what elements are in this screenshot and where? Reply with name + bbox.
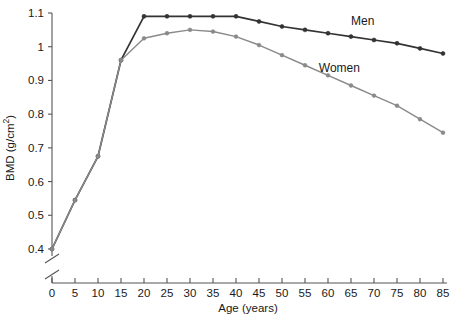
- x-axis-title: Age (years): [218, 302, 278, 314]
- y-tick-label: 0.9: [28, 74, 44, 86]
- x-tick-label: 60: [322, 287, 335, 299]
- y-tick-label: 0.6: [28, 176, 44, 188]
- x-tick-label: 20: [138, 287, 151, 299]
- x-tick-label: 75: [391, 287, 404, 299]
- data-point-marker: [280, 53, 284, 57]
- data-point-marker: [188, 14, 192, 18]
- data-point-marker: [257, 43, 261, 47]
- x-tick-label: 55: [299, 287, 312, 299]
- x-tick-label: 85: [437, 287, 450, 299]
- data-point-marker: [441, 51, 445, 55]
- x-tick-label: 50: [276, 287, 289, 299]
- y-tick-label: 0.7: [28, 142, 44, 154]
- x-tick-label: 40: [230, 287, 243, 299]
- data-point-marker: [418, 46, 422, 50]
- series-label-group: MenWomen: [319, 14, 375, 75]
- data-point-marker: [211, 30, 215, 34]
- data-point-marker: [349, 35, 353, 39]
- x-tick-label: 15: [115, 287, 128, 299]
- x-tick-label: 70: [368, 287, 381, 299]
- y-axis: 0.40.50.60.70.80.911.1: [28, 7, 59, 283]
- data-point-marker: [165, 14, 169, 18]
- data-point-marker: [303, 63, 307, 67]
- x-tick-label: 35: [207, 287, 220, 299]
- x-axis: 0510152025303540455055606570758085: [49, 278, 450, 299]
- y-axis-title: BMD (g/cm2): [1, 115, 16, 181]
- series-label-men: Men: [351, 14, 374, 28]
- chart-canvas: 0.40.50.60.70.80.911.1 05101520253035404…: [0, 0, 466, 320]
- y-tick-label: 0.8: [28, 108, 44, 120]
- data-point-marker: [96, 154, 100, 158]
- x-tick-label: 0: [49, 287, 55, 299]
- data-point-marker: [142, 14, 146, 18]
- x-tick-label: 30: [184, 287, 197, 299]
- data-point-marker: [165, 31, 169, 35]
- x-tick-label: 45: [253, 287, 266, 299]
- x-tick-label: 80: [414, 287, 427, 299]
- data-point-marker: [188, 28, 192, 32]
- data-point-marker: [257, 19, 261, 23]
- series-women: [50, 28, 445, 251]
- series-line-men: [52, 16, 443, 249]
- data-point-marker: [372, 94, 376, 98]
- data-point-marker: [142, 36, 146, 40]
- data-point-marker: [234, 14, 238, 18]
- y-tick-label: 1.1: [28, 7, 44, 19]
- data-point-marker: [234, 35, 238, 39]
- data-point-marker: [280, 24, 284, 28]
- series-label-women: Women: [319, 61, 360, 75]
- data-point-marker: [326, 31, 330, 35]
- data-point-marker: [395, 41, 399, 45]
- x-tick-label: 5: [72, 287, 78, 299]
- data-point-marker: [441, 131, 445, 135]
- y-tick-label: 1: [38, 41, 44, 53]
- data-point-marker: [73, 198, 77, 202]
- data-point-marker: [50, 247, 54, 251]
- series-men: [50, 14, 445, 251]
- x-tick-label: 65: [345, 287, 358, 299]
- data-series-group: [50, 14, 445, 251]
- x-tick-label: 25: [161, 287, 174, 299]
- bmd-age-line-chart: 0.40.50.60.70.80.911.1 05101520253035404…: [0, 0, 466, 320]
- data-point-marker: [395, 104, 399, 108]
- data-point-marker: [303, 28, 307, 32]
- data-point-marker: [372, 38, 376, 42]
- y-tick-label: 0.5: [28, 209, 44, 221]
- series-line-women: [52, 30, 443, 249]
- data-point-marker: [211, 14, 215, 18]
- y-tick-label: 0.4: [28, 243, 45, 255]
- data-point-marker: [418, 117, 422, 121]
- x-tick-label: 10: [92, 287, 105, 299]
- data-point-marker: [119, 58, 123, 62]
- data-point-marker: [349, 84, 353, 88]
